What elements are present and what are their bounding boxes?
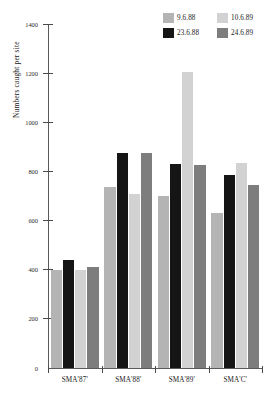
y-axis-tick-label: 0 [35,365,38,372]
x-axis-tick-label: SMA'89' [155,376,209,384]
y-axis-tick-label: 1400 [25,21,38,28]
bar [236,163,247,368]
bar [182,72,193,368]
legend-swatch-10-6-89 [217,13,228,23]
bar-group [158,24,206,368]
bar [117,153,128,368]
legend-label-10-6-89: 10.6.89 [231,13,253,23]
bar [248,185,259,368]
bar [158,196,169,368]
bar [51,270,62,368]
bar [75,270,86,368]
bar [129,194,140,368]
bar [194,165,205,368]
bar [63,260,74,368]
plot-area [48,24,262,368]
y-axis-title: Numbers caught per site [12,0,21,118]
bar [211,213,222,368]
bar-group [211,24,259,368]
x-axis-tick-label: SMA'C' [209,376,263,384]
bar [170,164,181,368]
bar-chart-figure: 9.6.88 23.6.88 10.6.89 24.6.89 Numbers c… [0,0,270,404]
legend-swatch-9-6-88 [163,13,174,23]
y-axis-title-wrap: Numbers caught per site [8,0,22,404]
y-axis-tick-label: 600 [28,217,38,224]
y-axis-tick-label: 1000 [25,119,38,126]
y-axis-tick-label: 800 [28,168,38,175]
bar [224,175,235,368]
legend-item-10-6-89: 10.6.89 [217,12,253,23]
y-axis-tick-label: 200 [28,315,38,322]
bar [141,153,152,368]
y-axis-tick-label: 1200 [25,70,38,77]
x-axis-tick-label: SMA'87' [48,376,102,384]
legend-label-9-6-88: 9.6.88 [177,13,196,23]
bar-group [104,24,152,368]
x-axis-tick-label: SMA'88' [102,376,156,384]
y-axis-tick-label: 400 [28,266,38,273]
bar-group [51,24,99,368]
x-axis-tick [262,366,263,373]
bar [87,267,98,368]
legend-item-9-6-88: 9.6.88 [163,12,196,23]
bar [104,187,115,368]
